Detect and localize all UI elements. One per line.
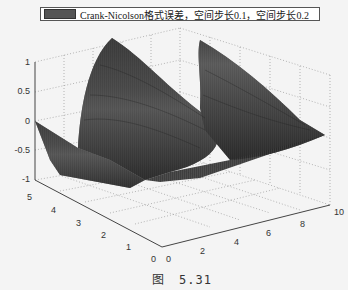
caption-label: 图	[152, 273, 165, 287]
svg-text:4: 4	[51, 205, 56, 215]
surface-plot: 1 0.5 0 -0.5 -1 5 4 3 2 1 0 0 2 4 6 8 10	[0, 0, 348, 290]
svg-text:0: 0	[166, 254, 171, 264]
svg-text:1: 1	[25, 57, 30, 67]
svg-text:2: 2	[101, 230, 106, 240]
svg-text:5: 5	[27, 192, 32, 202]
figure-caption: 图5.31	[152, 270, 226, 287]
legend-swatch	[44, 9, 76, 19]
svg-text:-1: -1	[22, 174, 30, 184]
svg-text:0: 0	[25, 116, 30, 126]
svg-text:2: 2	[200, 246, 205, 256]
svg-text:6: 6	[266, 228, 271, 238]
surface	[35, 38, 325, 188]
svg-text:4: 4	[234, 237, 239, 247]
svg-text:10: 10	[334, 207, 344, 217]
legend: Crank-Nicolson格式误差，空间步长0.1，空间步长0.2	[40, 7, 320, 21]
y-axis-ticks: 5 4 3 2 1 0	[27, 192, 156, 264]
svg-text:0.5: 0.5	[17, 86, 30, 96]
svg-text:-0.5: -0.5	[14, 145, 30, 155]
z-axis-ticks: 1 0.5 0 -0.5 -1	[14, 57, 30, 184]
svg-text:8: 8	[300, 219, 305, 229]
legend-label: Crank-Nicolson格式误差，空间步长0.1，空间步长0.2	[80, 7, 309, 21]
x-axis-ticks: 0 2 4 6 8 10	[166, 207, 344, 264]
caption-number: 5.31	[179, 273, 212, 287]
svg-text:1: 1	[126, 242, 131, 252]
svg-text:0: 0	[151, 254, 156, 264]
svg-text:3: 3	[76, 218, 81, 228]
